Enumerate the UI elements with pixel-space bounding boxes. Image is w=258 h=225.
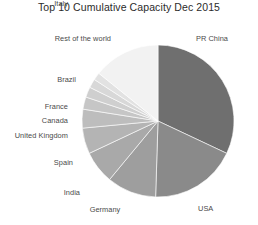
pie-label-canada: Canada <box>42 117 68 124</box>
pie-label-spain: Spain <box>54 159 73 166</box>
pie-label-germany: Germany <box>90 206 121 213</box>
pie-label-brazil: Brazil <box>57 76 76 83</box>
pie-label-pr-china: PR China <box>196 35 228 42</box>
pie-label-italy: Italy <box>54 0 68 7</box>
pie-label-france: France <box>45 103 68 110</box>
pie-chart-figure: Top 10 Cumulative Capacity Dec 2015 PR C… <box>0 0 258 225</box>
pie-label-united-kingdom: United Kingdom <box>15 132 68 139</box>
pie-label-india: India <box>64 189 80 196</box>
pie-label-usa: USA <box>198 205 213 212</box>
pie-chart-plot-area: PR China USA Germany India Spain United … <box>0 0 258 225</box>
pie-label-rest-of-the-world: Rest of the world <box>55 35 111 42</box>
